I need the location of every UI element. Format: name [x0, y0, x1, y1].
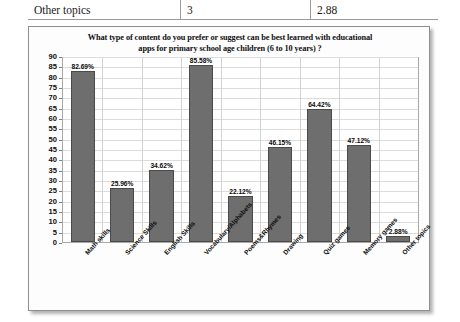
y-axis-tick-label: 35: [49, 167, 57, 175]
bar: [110, 188, 134, 242]
x-axis-label-slot: Vocabulary/Alphabets: [181, 245, 221, 315]
y-axis-tick-label: 60: [49, 115, 57, 123]
chart-title-line-2: apps for primary school age children (6 …: [43, 43, 417, 54]
bar-value-label: 82.69%: [72, 63, 94, 70]
chart-title: What type of content do you prefer or su…: [43, 32, 417, 54]
plot-area-wrapper: 051015202530354045505560657075808590 82.…: [39, 57, 423, 272]
bar-slot: 34.62%: [142, 58, 181, 242]
bar: [189, 65, 213, 242]
bar-slot: 25.96%: [102, 58, 141, 242]
y-axis-tick-label: 5: [53, 229, 57, 237]
x-axis-label-slot: Poems&Rhymes: [221, 245, 261, 315]
bar: [71, 71, 95, 242]
bar: [307, 109, 331, 242]
y-axis-tick-label: 75: [49, 84, 57, 92]
x-axis-label-slot: Math skills: [62, 245, 102, 315]
x-axis-labels: Math skillsScience SkillsEnglish SkillsV…: [62, 245, 419, 315]
chart-figure: What type of content do you prefer or su…: [28, 26, 430, 311]
chart-title-line-1: What type of content do you prefer or su…: [43, 32, 417, 43]
y-axis-tick-mark: [59, 243, 62, 244]
bar-value-label: 22.12%: [229, 188, 251, 195]
table-cell-count: 3: [180, 0, 310, 19]
bar-slot: 46.15%: [260, 58, 299, 242]
bar-value-label: 46.15%: [269, 139, 291, 146]
y-axis-tick-label: 15: [49, 208, 57, 216]
x-axis-label-slot: Science Skills: [102, 245, 142, 315]
table-cell-percent: 2.88: [310, 0, 438, 19]
x-axis-label-slot: Drawing: [260, 245, 300, 315]
y-axis-tick-label: 55: [49, 125, 57, 133]
y-axis-tick-label: 10: [49, 218, 57, 226]
y-axis-tick-label: 45: [49, 146, 57, 154]
y-axis-tick-label: 0: [53, 239, 57, 247]
bar-value-label: 2.88%: [389, 228, 408, 235]
bar-value-label: 64.42%: [308, 101, 330, 108]
y-axis-tick-label: 85: [49, 63, 57, 71]
bar-slot: 2.88%: [379, 58, 418, 242]
y-axis: 051015202530354045505560657075808590: [39, 57, 59, 243]
y-axis-tick-label: 20: [49, 198, 57, 206]
x-axis-label-slot: Quiz games: [300, 245, 340, 315]
y-axis-tick-label: 25: [49, 187, 57, 195]
y-axis-tick-label: 30: [49, 177, 57, 185]
bar-slot: 85.58%: [181, 58, 220, 242]
table-cell-label: Other topics: [28, 0, 180, 19]
y-axis-tick-label: 90: [49, 53, 57, 61]
bar: [149, 170, 173, 242]
y-axis-tick-label: 65: [49, 105, 57, 113]
bar-value-label: 34.62%: [150, 162, 172, 169]
bar-slot: 47.12%: [339, 58, 378, 242]
bar-slot: 64.42%: [300, 58, 339, 242]
table-fragment: Other topics 3 2.88: [28, 0, 438, 20]
y-axis-tick-label: 70: [49, 94, 57, 102]
document-page: Other topics 3 2.88 What type of content…: [0, 0, 460, 322]
bar-slot: 82.69%: [63, 58, 102, 242]
table-row: Other topics 3 2.88: [28, 0, 438, 20]
y-axis-tick-label: 50: [49, 136, 57, 144]
y-axis-tick-label: 80: [49, 74, 57, 82]
bar-value-label: 85.58%: [190, 57, 212, 64]
bar-value-label: 47.12%: [348, 137, 370, 144]
x-axis-label-slot: English Skills: [141, 245, 181, 315]
x-axis-label-slot: Other topics: [379, 245, 419, 315]
x-axis-label-slot: Memory games: [340, 245, 380, 315]
bar: [386, 236, 410, 242]
bar-value-label: 25.96%: [111, 180, 133, 187]
y-axis-tick-label: 40: [49, 156, 57, 164]
